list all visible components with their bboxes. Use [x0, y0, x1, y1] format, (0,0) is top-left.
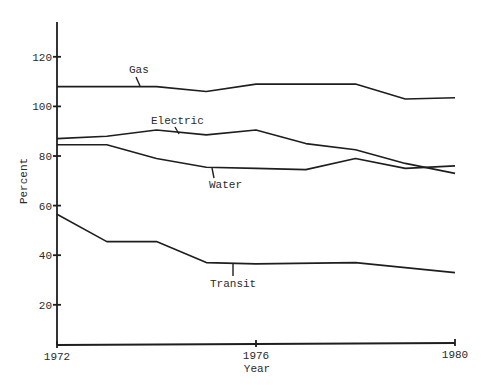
x-tick-label: 1976: [243, 350, 269, 362]
y-tick-label: 40: [39, 250, 52, 262]
x-axis-title: Year: [244, 363, 270, 375]
y-axis-title: Percent: [18, 158, 30, 204]
x-tick-label: 1980: [442, 349, 468, 361]
y-tick-label: 120: [32, 52, 52, 64]
x-tick-label: 1972: [44, 351, 70, 363]
series-label-gas: Gas: [129, 64, 149, 76]
series-line-transit: [57, 214, 455, 272]
label-leader: [136, 77, 140, 86]
axes: 20406080100120197219761980: [32, 22, 468, 363]
line-chart: 20406080100120197219761980 GasElectricWa…: [0, 0, 481, 388]
label-leader: [175, 127, 179, 134]
series-label-electric: Electric: [151, 115, 204, 127]
y-tick-label: 80: [39, 151, 52, 163]
label-leader: [212, 168, 214, 178]
series-label-water: Water: [209, 179, 242, 191]
series-label-transit: Transit: [210, 278, 256, 290]
y-tick-label: 20: [39, 300, 52, 312]
series-line-water: [57, 145, 455, 170]
y-tick-label: 60: [39, 201, 52, 213]
series-lines: [57, 84, 455, 273]
series-line-gas: [57, 84, 455, 99]
y-tick-label: 100: [32, 101, 52, 113]
